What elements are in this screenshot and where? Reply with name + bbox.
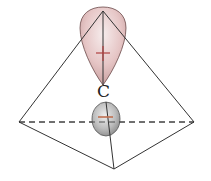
lower-orbital-lobe: [92, 102, 120, 136]
carbon-atom-label: C: [97, 83, 110, 100]
tetrahedral-orbital-diagram: C: [0, 0, 211, 181]
